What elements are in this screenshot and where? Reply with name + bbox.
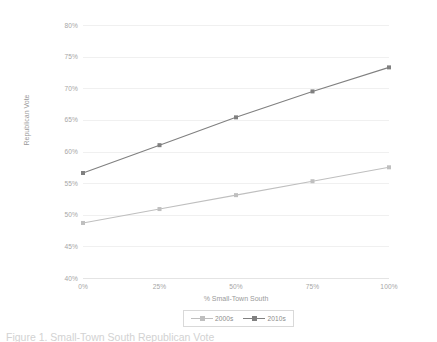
data-point-marker bbox=[311, 89, 315, 93]
data-point-marker bbox=[387, 65, 391, 69]
data-point-marker bbox=[387, 165, 391, 169]
series-lines bbox=[83, 25, 389, 278]
y-axis-tick-label: 45% bbox=[44, 243, 78, 250]
data-point-marker bbox=[81, 171, 85, 175]
data-point-marker bbox=[234, 193, 238, 197]
x-axis-tick-label: 75% bbox=[291, 283, 335, 291]
chart-legend[interactable]: 2000s2010s bbox=[183, 310, 294, 327]
data-point-marker bbox=[81, 221, 85, 225]
figure-caption: Figure 1. Small-Town South Republican Vo… bbox=[6, 333, 306, 342]
gridline bbox=[83, 278, 389, 279]
data-point-marker bbox=[158, 143, 162, 147]
y-axis-tick-label: 80% bbox=[44, 22, 78, 29]
y-axis-tick-label: 60% bbox=[44, 148, 78, 155]
legend-entry-2010s[interactable]: 2010s bbox=[243, 315, 285, 323]
y-axis-tick-labels: 80%75%70%65%60%55%50%45%40% bbox=[40, 25, 78, 278]
x-axis-tick-label: 100% bbox=[367, 283, 411, 291]
y-axis-tick-label: 65% bbox=[44, 116, 78, 123]
chart-figure: 80%75%70%65%60%55%50%45%40% Republican V… bbox=[0, 0, 437, 342]
x-axis-title: % Small-Town South bbox=[83, 294, 389, 303]
y-axis-tick-label: 75% bbox=[44, 53, 78, 60]
y-axis-title: Republican Vote bbox=[23, 65, 31, 175]
legend-entry-2000s[interactable]: 2000s bbox=[191, 315, 233, 323]
legend-swatch-icon bbox=[243, 315, 265, 322]
legend-label: 2010s bbox=[267, 315, 285, 323]
x-axis-tick-label: 25% bbox=[138, 283, 182, 291]
series-line bbox=[83, 67, 389, 173]
legend-swatch-icon bbox=[191, 315, 213, 322]
figure-caption-text: Figure 1. Small-Town South Republican Vo… bbox=[6, 333, 306, 342]
legend-label: 2000s bbox=[215, 315, 233, 323]
y-axis-tick-label: 70% bbox=[44, 85, 78, 92]
x-axis-tick-label: 50% bbox=[214, 283, 258, 291]
data-point-marker bbox=[234, 115, 238, 119]
plot-area bbox=[83, 25, 389, 278]
series-2010s bbox=[81, 65, 391, 175]
y-axis-tick-label: 40% bbox=[44, 275, 78, 282]
y-axis-tick-label: 50% bbox=[44, 211, 78, 218]
data-point-marker bbox=[311, 179, 315, 183]
data-point-marker bbox=[158, 207, 162, 211]
y-axis-tick-label: 55% bbox=[44, 180, 78, 187]
series-2000s bbox=[81, 165, 391, 225]
x-axis-tick-label: 0% bbox=[61, 283, 105, 291]
